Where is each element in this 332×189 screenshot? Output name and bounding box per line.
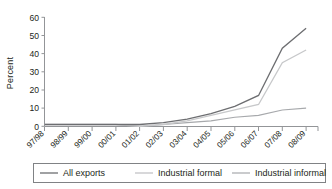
legend-label-all-exports: All exports	[63, 168, 106, 178]
legend-label-industrial-informal: Industrial informal	[255, 168, 326, 178]
legend-label-industrial-formal: Industrial formal	[158, 168, 222, 178]
chart-figure: Percent 60 50 40 30 20 10 0	[0, 0, 332, 189]
legend: All exports Industrial formal Industrial…	[0, 0, 332, 189]
